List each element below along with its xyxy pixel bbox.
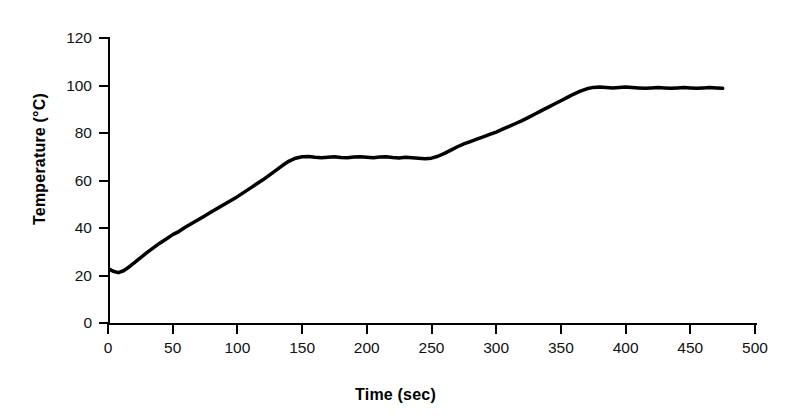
x-tick-label-150: 150 (272, 340, 332, 356)
x-axis-title: Time (sec) (0, 386, 791, 404)
temperature-time-chart: Temperature (°C) Time (sec) 020406080100… (0, 0, 791, 418)
y-tick-label-120: 120 (44, 30, 92, 46)
x-tick-label-500: 500 (725, 340, 785, 356)
y-tick-label-100: 100 (44, 78, 92, 94)
temperature-curve (108, 38, 757, 325)
x-tick-label-350: 350 (531, 340, 591, 356)
y-tick-label-0: 0 (44, 315, 92, 331)
x-tick-label-200: 200 (337, 340, 397, 356)
x-tick-label-250: 250 (402, 340, 462, 356)
y-tick-label-80: 80 (44, 125, 92, 141)
x-tick-label-50: 50 (143, 340, 203, 356)
x-tick-label-0: 0 (78, 340, 138, 356)
y-tick-label-20: 20 (44, 268, 92, 284)
y-tick-label-60: 60 (44, 173, 92, 189)
y-tick-label-40: 40 (44, 220, 92, 236)
x-tick-label-100: 100 (207, 340, 267, 356)
x-tick-label-300: 300 (466, 340, 526, 356)
x-tick-label-400: 400 (596, 340, 656, 356)
x-tick-label-450: 450 (660, 340, 720, 356)
